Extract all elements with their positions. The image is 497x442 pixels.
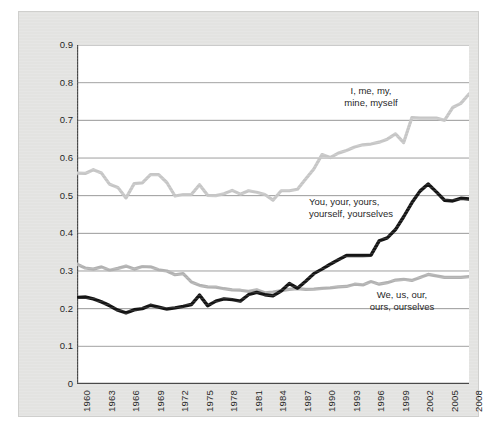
x-axis-tick-labels: 1960196319661969197219751978198119841987… bbox=[77, 390, 469, 430]
y-axis-tick-label: 0.1 bbox=[41, 341, 73, 351]
x-axis-tick-label: 1972 bbox=[179, 390, 190, 412]
figure-panel: 0.90.80.70.60.50.40.30.20.10 19601963196… bbox=[18, 11, 479, 417]
y-axis-tick-label: 0.5 bbox=[41, 191, 73, 201]
y-axis-tick-label: 0.2 bbox=[41, 304, 73, 314]
y-axis-tick-label: 0.7 bbox=[41, 115, 73, 125]
y-axis-tick-label: 0.8 bbox=[41, 78, 73, 88]
x-axis-tick-label: 1984 bbox=[277, 390, 288, 412]
series-line bbox=[77, 94, 469, 200]
y-axis-tick-label: 0.9 bbox=[41, 40, 73, 50]
y-axis-tick-label: 0.4 bbox=[41, 228, 73, 238]
y-axis-tick-label: 0 bbox=[41, 379, 73, 389]
x-axis-tick-label: 1999 bbox=[400, 390, 411, 412]
x-axis-tick-label: 1969 bbox=[155, 390, 166, 412]
x-axis-tick-label: 1960 bbox=[81, 390, 92, 412]
plot-area bbox=[77, 45, 469, 384]
x-axis-tick-label: 2005 bbox=[449, 390, 460, 412]
annotation-line-2: mine, myself bbox=[344, 97, 397, 109]
annotation-line-2: ours, ourselves bbox=[370, 301, 434, 313]
x-axis-tick-label: 1987 bbox=[302, 390, 313, 412]
x-axis-tick-label: 2008 bbox=[473, 390, 484, 412]
annotation-line-1: You, your, yours, bbox=[309, 196, 393, 208]
figure-page: 0.90.80.70.60.50.40.30.20.10 19601963196… bbox=[0, 0, 497, 442]
annotation-line-1: I, me, my, bbox=[344, 85, 397, 97]
x-axis-tick-label: 1966 bbox=[130, 390, 141, 412]
y-axis-tick-labels: 0.90.80.70.60.50.40.30.20.10 bbox=[37, 45, 73, 384]
y-axis-tick-label: 0.3 bbox=[41, 266, 73, 276]
y-axis-tick-label: 0.6 bbox=[41, 153, 73, 163]
x-axis-tick-label: 1981 bbox=[253, 390, 264, 412]
x-axis-tick-label: 1978 bbox=[228, 390, 239, 412]
x-axis-tick-label: 1993 bbox=[351, 390, 362, 412]
series-annotation-second-person: You, your, yours, yourself, yourselves bbox=[309, 196, 393, 220]
annotation-line-2: yourself, yourselves bbox=[309, 208, 393, 220]
line-chart-svg bbox=[77, 45, 469, 384]
series-annotation-first-person-singular: I, me, my, mine, myself bbox=[344, 85, 397, 109]
annotation-line-1: We, us, our, bbox=[370, 289, 434, 301]
x-axis-tick-label: 1996 bbox=[375, 390, 386, 412]
x-axis-tick-label: 1990 bbox=[326, 390, 337, 412]
x-axis-tick-label: 2002 bbox=[424, 390, 435, 412]
x-axis-tick-label: 1975 bbox=[204, 390, 215, 412]
x-axis-tick-label: 1963 bbox=[106, 390, 117, 412]
series-annotation-first-person-plural: We, us, our, ours, ourselves bbox=[370, 289, 434, 313]
